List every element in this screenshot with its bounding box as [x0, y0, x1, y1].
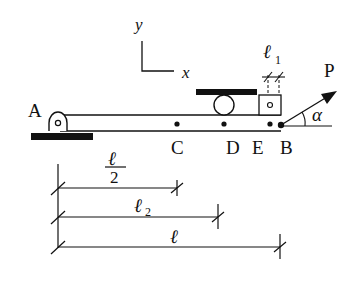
l1-subscript: 1 [275, 53, 281, 67]
point-label-b: B [280, 137, 293, 158]
point-label-c: C [171, 137, 184, 158]
x-axis-label: x [181, 63, 190, 82]
coordinate-axes [142, 41, 174, 71]
slider-block-e [259, 75, 281, 115]
dimension-lines [51, 164, 286, 259]
point-e-dot [267, 121, 272, 126]
half-l-numerator: ℓ [108, 148, 116, 169]
l1-label: ℓ [263, 41, 271, 62]
l-label: ℓ [170, 226, 178, 247]
half-l-denominator: 2 [110, 168, 119, 187]
point-d-dot [221, 121, 226, 126]
angle-label-alpha: α [312, 104, 323, 125]
l2-subscript: 2 [145, 205, 151, 219]
point-label-d: D [226, 137, 240, 158]
y-axis-label: y [133, 15, 143, 34]
l2-label: ℓ [134, 195, 142, 216]
point-label-a: A [28, 100, 42, 121]
point-label-e: E [252, 137, 264, 158]
beam-points [174, 121, 284, 128]
dimension-l1 [262, 72, 285, 82]
force-label-p: P [324, 60, 335, 81]
beam-diagram: y x A ℓ 1 C D E B [0, 0, 359, 281]
beam [60, 115, 281, 131]
point-c-dot [174, 121, 179, 126]
roller-support-d [196, 89, 257, 115]
force-p [281, 91, 337, 126]
